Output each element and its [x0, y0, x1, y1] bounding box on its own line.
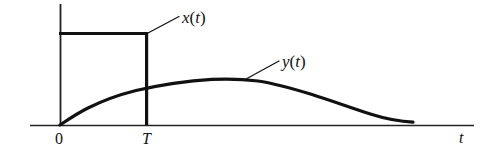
x-signal-paren-close: ) [200, 8, 206, 27]
y-signal-paren-close: ) [300, 52, 306, 71]
response-curve [60, 79, 413, 125]
y-signal-variable: y [282, 52, 290, 71]
tick-label-period: T [142, 131, 151, 147]
x-signal-variable: x [182, 8, 190, 27]
time-axis-label: t [459, 130, 463, 146]
tick-label-origin: 0 [55, 131, 63, 147]
y-signal-label: y(t) [282, 53, 306, 70]
x-signal-leader-line [148, 17, 179, 34]
plot-canvas [0, 0, 492, 159]
x-signal-label: x(t) [182, 9, 206, 26]
signal-plot-figure: x(t) y(t) 0 T t [0, 0, 492, 159]
y-signal-leader-line [246, 61, 279, 79]
